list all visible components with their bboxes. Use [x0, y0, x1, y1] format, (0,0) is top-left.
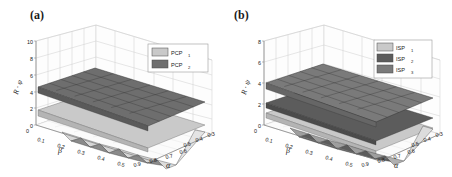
tick: 0.7 [165, 152, 174, 160]
tick: 0 [258, 123, 261, 129]
tick: 8 [30, 56, 33, 62]
legend-label-isp2: ISP [396, 56, 405, 62]
tick: 0 [254, 128, 257, 134]
tick: 4 [258, 81, 261, 87]
tick: 0.6 [179, 147, 188, 155]
tick: 6 [30, 73, 33, 79]
panel-b-y-ticks: 8 6 4 2 0 [258, 39, 264, 129]
tick: 0.9 [361, 160, 370, 168]
tick: 0.4 [97, 154, 106, 162]
panel-a-y-ticks: 10 8 6 4 2 0 [27, 39, 36, 129]
tick: 0.1 [265, 136, 274, 144]
tick: 6 [258, 60, 261, 66]
legend-swatch-isp3 [377, 65, 393, 73]
panel-b-beta-axis-label: β [285, 146, 290, 155]
tick: 0.5 [411, 140, 420, 148]
panel-b-legend[interactable]: ISP 1 ISP 2 ISP 3 [374, 40, 432, 78]
tick: 0.5 [117, 160, 126, 168]
tick: 2 [258, 102, 261, 108]
tick: 0.3 [207, 130, 216, 138]
tick: 0 [30, 123, 33, 129]
tick: 8 [258, 39, 261, 45]
tick: 0.6 [407, 147, 416, 155]
legend-swatch-pcp2 [152, 60, 168, 68]
tick: 0.5 [345, 160, 354, 168]
legend-swatch-isp1 [377, 43, 393, 51]
tick: 0.1 [37, 136, 46, 144]
legend-swatch-isp2 [377, 54, 393, 62]
tick: 0.7 [393, 152, 402, 160]
tick: 0 [26, 128, 29, 134]
tick: 2 [30, 106, 33, 112]
legend-label-isp1: ISP [396, 45, 405, 51]
figure-container: (a) [0, 0, 452, 177]
legend-label-pcp2: PCP [171, 62, 183, 68]
tick: 4 [30, 90, 33, 96]
tick: 10 [27, 39, 33, 45]
tick: 0.3 [77, 148, 86, 156]
panel-a-legend[interactable]: PCP 1 PCP 2 [148, 44, 208, 72]
panel-b-y-axis-label: R · ψ [239, 78, 253, 96]
tick: 0.9 [133, 160, 142, 168]
tick: 0.8 [377, 156, 386, 164]
panel-a-beta-axis-label: β [57, 146, 62, 155]
panel-a-plot: 10 8 6 4 2 0 R · φ 0 0.1 0.2 0.3 [0, 0, 226, 177]
panel-a: (a) [0, 0, 226, 177]
tick: 0.4 [195, 135, 204, 143]
legend-label-pcp1: PCP [171, 50, 183, 56]
tick: 0.3 [305, 148, 314, 156]
panel-a-y-axis-label: R · φ [11, 79, 24, 97]
legend-swatch-pcp1 [152, 48, 168, 56]
tick: 0.4 [423, 135, 432, 143]
tick: 0.3 [435, 130, 444, 138]
panel-b-plot: 8 6 4 2 0 R · ψ 0 0.1 0.2 0.3 0.4 0.5 [226, 0, 452, 177]
tick: 0.4 [325, 154, 334, 162]
panel-b: (b) [226, 0, 452, 177]
legend-label-isp3: ISP [396, 67, 405, 73]
